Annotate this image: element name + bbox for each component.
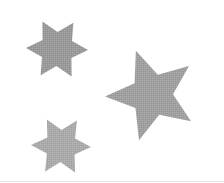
six-point-star-top-left-icon (26, 22, 88, 77)
bottom-divider (0, 181, 224, 182)
star-scene (0, 0, 224, 183)
five-point-star-right-icon (105, 51, 191, 140)
six-point-star-bottom-left-icon (31, 120, 91, 173)
